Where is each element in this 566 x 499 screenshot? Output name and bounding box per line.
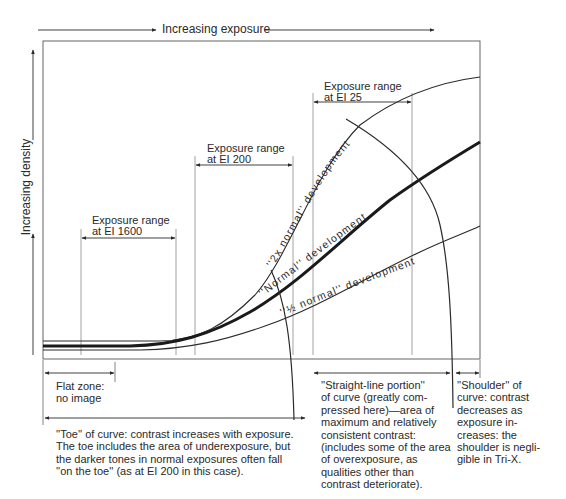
plot-frame — [43, 41, 480, 359]
curve-2x-normal — [43, 77, 480, 341]
ei25-label-line2: at EI 25 — [324, 91, 362, 103]
y-axis-label: Increasing density — [20, 139, 32, 236]
ei1600-label-line2: at EI 1600 — [92, 225, 142, 237]
toe-note: ''Toe'' of curve: contrast increases wit… — [56, 428, 294, 478]
label-2x-normal: ''2x normal'' development — [264, 137, 353, 269]
curve-normal — [43, 142, 480, 346]
shoulder-note: ''Shoulder'' of curve: contrast decrease… — [457, 379, 540, 466]
flat-zone-note: Flat zone: no image — [56, 380, 104, 405]
ei200-label-line2: at EI 200 — [207, 153, 251, 165]
toe-boundary-arc — [271, 270, 294, 420]
straight-line-note: ''Straight-line portion'' of curve (grea… — [321, 379, 451, 491]
x-axis-label: Increasing exposure — [162, 23, 270, 35]
